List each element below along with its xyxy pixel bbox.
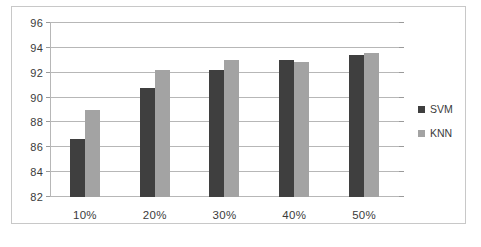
bar-group: 20% xyxy=(120,23,190,197)
legend-label: SVM xyxy=(430,103,453,115)
bar-svm-50 xyxy=(349,55,364,197)
bar-knn-40 xyxy=(294,62,309,197)
y-axis-tick-right xyxy=(399,121,404,122)
y-axis-tick-right xyxy=(399,196,404,197)
x-axis-tick-label: 30% xyxy=(190,209,260,221)
bar-svm-20 xyxy=(140,88,155,197)
bar-svm-10 xyxy=(70,139,85,197)
plot-area: 8284868890929496 10%20%30%40%50% xyxy=(50,23,399,197)
x-axis-tick-label: 50% xyxy=(329,209,399,221)
x-axis-tick-label: 10% xyxy=(50,209,120,221)
bar-group: 40% xyxy=(259,23,329,197)
legend-swatch-icon xyxy=(418,130,425,137)
y-axis-tick-label: 84 xyxy=(30,166,43,178)
bar-knn-10 xyxy=(85,110,100,197)
bar-group: 50% xyxy=(329,23,399,197)
y-axis-tick-right xyxy=(399,146,404,147)
y-axis-tick-label: 96 xyxy=(30,17,43,29)
y-axis-tick-right xyxy=(399,171,404,172)
bar-group: 30% xyxy=(190,23,260,197)
x-axis-tick-label: 20% xyxy=(120,209,190,221)
chart-frame: 8284868890929496 10%20%30%40%50% xyxy=(11,6,466,224)
x-axis-tick-label: 40% xyxy=(259,209,329,221)
bar-knn-50 xyxy=(364,53,379,197)
y-axis-tick-label: 82 xyxy=(30,191,43,203)
y-axis-tick-label: 94 xyxy=(30,42,43,54)
y-axis-tick-right xyxy=(399,22,404,23)
bar-svm-30 xyxy=(209,70,224,197)
bar-knn-30 xyxy=(224,60,239,197)
legend-label: KNN xyxy=(430,127,452,139)
bar-svm-40 xyxy=(279,60,294,197)
y-axis-tick-right xyxy=(399,72,404,73)
legend-item-svm[interactable]: SVM xyxy=(418,103,453,115)
legend-swatch-icon xyxy=(418,106,425,113)
y-axis-tick-label: 88 xyxy=(30,116,43,128)
bar-knn-20 xyxy=(155,70,170,197)
y-axis-tick-label: 86 xyxy=(30,141,43,153)
y-axis-tick-label: 90 xyxy=(30,92,43,104)
bar-group: 10% xyxy=(50,23,120,197)
chart-legend: SVMKNN xyxy=(418,103,453,151)
y-axis-tick-label: 92 xyxy=(30,67,43,79)
y-axis-tick-right xyxy=(399,47,404,48)
y-axis-tick-right xyxy=(399,97,404,98)
legend-item-knn[interactable]: KNN xyxy=(418,127,453,139)
